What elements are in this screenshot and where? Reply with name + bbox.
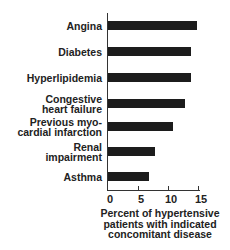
category-label: Renalimpairment bbox=[45, 142, 102, 162]
bar bbox=[108, 21, 197, 30]
bar bbox=[108, 122, 173, 131]
bar bbox=[108, 99, 185, 108]
x-tick-label: 10 bbox=[165, 193, 177, 205]
category-label: Diabetes bbox=[58, 47, 102, 57]
bar bbox=[108, 172, 149, 181]
horizontal-bar-chart: AnginaDiabetesHyperlipidemiaCongestivehe… bbox=[0, 0, 230, 250]
bar bbox=[108, 147, 155, 156]
x-axis-label: Percent of hypertensivepatients with ind… bbox=[95, 208, 225, 240]
x-tick bbox=[168, 186, 169, 190]
bar bbox=[108, 73, 191, 82]
bar bbox=[108, 47, 191, 56]
x-tick-label: 15 bbox=[195, 193, 207, 205]
x-tick bbox=[198, 186, 199, 190]
x-tick bbox=[107, 186, 108, 190]
x-tick-label: 0 bbox=[107, 193, 113, 205]
category-label: Asthma bbox=[63, 172, 102, 182]
category-label: Angina bbox=[66, 21, 102, 31]
category-label: Congestiveheart failure bbox=[42, 94, 102, 114]
category-label: Hyperlipidemia bbox=[27, 73, 102, 83]
x-tick bbox=[138, 186, 139, 190]
x-tick-label: 5 bbox=[138, 193, 144, 205]
category-label: Previous myo-cardial infarction bbox=[17, 117, 102, 137]
x-axis-line bbox=[107, 190, 200, 191]
